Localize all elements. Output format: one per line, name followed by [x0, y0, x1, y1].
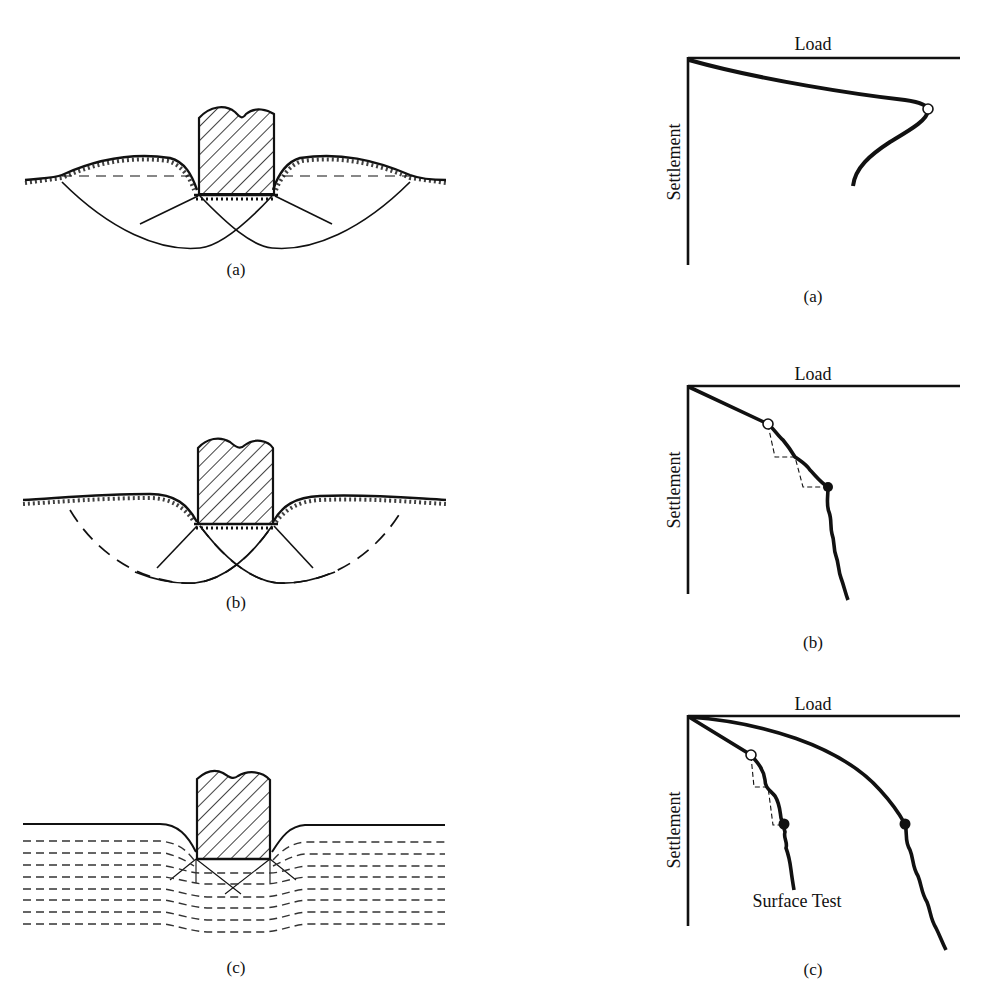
- footing-c: [197, 771, 270, 859]
- caption-graph-c: (c): [804, 960, 823, 979]
- surface-test-annotation: Surface Test: [753, 891, 842, 911]
- open-circle-marker-c: [746, 750, 756, 760]
- diagram-a-general-shear: (a): [25, 107, 446, 279]
- caption-diagram-c: (c): [227, 958, 246, 977]
- filled-circle-marker-deep-c: [900, 819, 911, 830]
- x-axis-label-c: Load: [795, 694, 832, 714]
- soil-surface-left-b: [23, 494, 197, 522]
- y-axis-label-a: Settlement: [664, 124, 684, 201]
- x-axis-label-b: Load: [795, 364, 832, 384]
- surface-test-curve: [689, 717, 794, 890]
- filled-circle-marker-surface-c: [779, 819, 790, 830]
- graph-a: Load Settlement (a): [664, 34, 960, 306]
- footing-b: [198, 439, 273, 524]
- caption-diagram-a: (a): [227, 260, 246, 279]
- caption-graph-b: (b): [803, 633, 823, 652]
- footing-a: [199, 107, 274, 194]
- deep-footing-curve: [689, 717, 946, 950]
- caption-diagram-b: (b): [226, 593, 246, 612]
- diagram-b-local-shear: (b): [23, 439, 446, 612]
- diagram-c-punching-shear: (c): [23, 771, 445, 977]
- soil-surface-right-a: [273, 156, 446, 190]
- open-circle-marker-a: [923, 104, 933, 114]
- figure-canvas: (a) Load Settlement (a) (b) Load Settlem…: [0, 0, 992, 1000]
- y-axis-label-b: Settlement: [664, 452, 684, 529]
- y-axis-label-c: Settlement: [664, 792, 684, 869]
- filled-circle-marker-b: [823, 482, 833, 492]
- graph-b: Load Settlement (b): [664, 364, 960, 652]
- soil-surface-left-a: [25, 156, 197, 190]
- open-circle-marker-b: [763, 419, 773, 429]
- caption-graph-a: (a): [804, 287, 823, 306]
- soil-surface-c: [23, 824, 196, 852]
- x-axis-label-a: Load: [795, 34, 832, 54]
- graph-c: Load Settlement Surface Test (c): [664, 694, 960, 979]
- load-settlement-curve-a: [689, 60, 928, 186]
